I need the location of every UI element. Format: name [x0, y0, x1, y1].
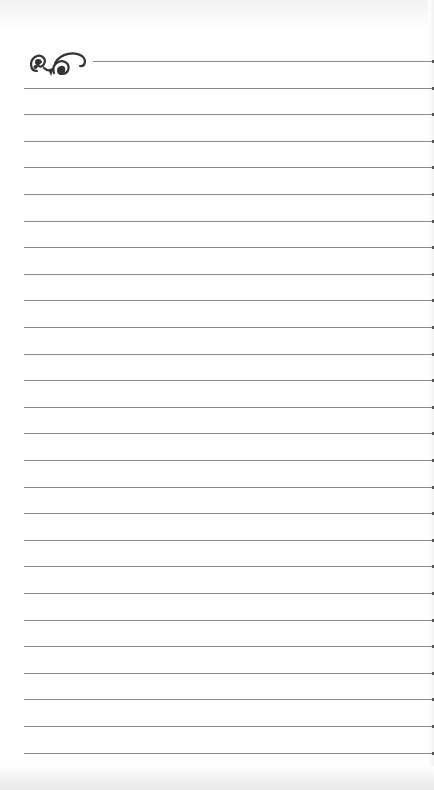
ruled-line — [24, 753, 432, 754]
ruled-line — [24, 247, 432, 248]
ruled-line — [24, 274, 432, 275]
ruled-line — [24, 646, 432, 647]
ruled-line — [24, 433, 432, 434]
ruled-line — [24, 460, 432, 461]
top-page-shading — [0, 0, 434, 30]
ruled-line — [93, 61, 432, 62]
ruled-line — [24, 88, 432, 89]
ruled-line — [24, 380, 432, 381]
ruled-line — [24, 114, 432, 115]
ruled-line — [24, 221, 432, 222]
ruled-line — [24, 194, 432, 195]
notebook-page — [0, 0, 434, 790]
ruled-line — [24, 487, 432, 488]
ruled-line — [24, 726, 432, 727]
ruled-line — [24, 593, 432, 594]
ruled-line — [24, 327, 432, 328]
ruled-line — [24, 620, 432, 621]
ruled-line — [24, 141, 432, 142]
ruled-line — [24, 354, 432, 355]
ruled-line — [24, 673, 432, 674]
ruled-line — [24, 300, 432, 301]
ruled-line — [24, 566, 432, 567]
ruled-line — [24, 699, 432, 700]
flourish-ornament-icon — [27, 49, 89, 81]
ruled-line — [24, 167, 432, 168]
ruled-line — [24, 407, 432, 408]
ruled-line — [24, 513, 432, 514]
bottom-page-shading — [0, 766, 434, 790]
ruled-line — [24, 540, 432, 541]
